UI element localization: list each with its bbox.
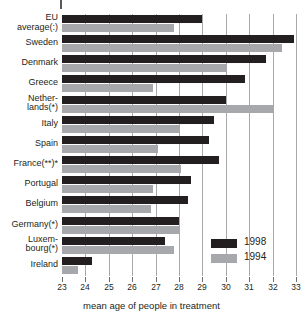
bar-group (62, 176, 296, 196)
bar-group (62, 156, 296, 176)
bar-group (62, 75, 296, 95)
x-axis-tick-label: 23 (50, 282, 74, 292)
x-axis-tick-label: 32 (261, 282, 285, 292)
bar-1998 (62, 257, 92, 265)
category-label: Greece (0, 78, 58, 88)
bar-1998 (62, 237, 165, 245)
bar-1994 (62, 185, 153, 193)
bar-1994 (62, 205, 151, 213)
bar-1994 (62, 44, 282, 52)
bar-1994 (62, 246, 174, 254)
bar-1998 (62, 75, 245, 83)
bar-1998 (62, 15, 202, 23)
bar-1994 (62, 226, 179, 234)
bar-1998 (62, 156, 219, 164)
category-label: Ireland (0, 260, 58, 270)
bar-group (62, 217, 296, 237)
bar-group (62, 116, 296, 136)
bar-1994 (62, 24, 174, 32)
bar-group (62, 55, 296, 75)
bar-1994 (62, 84, 153, 92)
bar-1998 (62, 55, 266, 63)
bar-group (62, 35, 296, 55)
category-label: Spain (0, 139, 58, 149)
x-axis-tick-label: 28 (167, 282, 191, 292)
x-axis-tick-label: 31 (237, 282, 261, 292)
grid-line (296, 14, 297, 276)
category-label: France(**)* (0, 159, 58, 169)
bar-group (62, 196, 296, 216)
bar-1998 (62, 176, 191, 184)
category-label: Italy (0, 119, 58, 129)
bar-1994 (62, 64, 226, 72)
top-axis-mark (60, 0, 62, 9)
category-label: Sweden (0, 38, 58, 48)
bar-group (62, 237, 296, 257)
bar-group (62, 96, 296, 116)
bar-1994 (62, 165, 181, 173)
x-axis-tick-label: 26 (120, 282, 144, 292)
bar-group (62, 257, 296, 277)
category-label: Luxem- bourg(*) (0, 235, 58, 254)
x-axis-tick-label: 29 (190, 282, 214, 292)
bar-1994 (62, 125, 179, 133)
category-label: Nether- lands(*) (0, 94, 58, 113)
category-label: Belgium (0, 199, 58, 209)
category-label: Portugal (0, 179, 58, 189)
bar-1994 (62, 266, 78, 274)
category-label: EU average(:) (0, 13, 58, 32)
x-axis-tick-label: 25 (97, 282, 121, 292)
x-axis-tick-label: 27 (144, 282, 168, 292)
x-axis-tick-label: 24 (73, 282, 97, 292)
bar-1998 (62, 136, 209, 144)
bar-1998 (62, 217, 179, 225)
category-label: Germany(*) (0, 220, 58, 230)
bar-1998 (62, 35, 294, 43)
bar-1998 (62, 96, 226, 104)
x-axis-tick-label: 33 (284, 282, 303, 292)
bar-chart: 2324252627282930313233 mean age of peopl… (0, 0, 303, 319)
x-axis-tick-label: 30 (214, 282, 238, 292)
category-label: Denmark (0, 58, 58, 68)
x-axis-title: mean age of people in treatment (0, 300, 303, 311)
bar-group (62, 136, 296, 156)
bar-group (62, 15, 296, 35)
bar-1994 (62, 145, 158, 153)
bar-1998 (62, 116, 214, 124)
bar-1994 (62, 105, 273, 113)
bar-1998 (62, 196, 188, 204)
